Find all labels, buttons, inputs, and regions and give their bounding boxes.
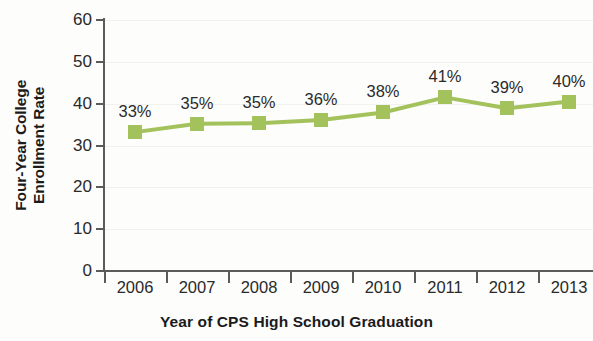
x-axis-tick-label: 2011 xyxy=(414,278,476,297)
data-point-label: 39% xyxy=(475,78,539,97)
data-point-marker xyxy=(562,95,576,109)
y-axis-tick-label: 10 xyxy=(52,219,92,239)
y-axis-tick-mark xyxy=(96,61,105,63)
y-axis-tick-mark xyxy=(96,19,105,21)
x-axis-tick-label: 2007 xyxy=(166,278,228,297)
data-point-label: 35% xyxy=(227,93,291,112)
data-point-label: 35% xyxy=(165,94,229,113)
y-axis-tick-labels: 0102030405060 xyxy=(50,0,92,341)
data-point-marker xyxy=(500,101,514,115)
data-point-marker xyxy=(190,117,204,131)
y-axis-tick-label: 50 xyxy=(52,52,92,72)
y-axis-tick-mark xyxy=(96,228,105,230)
x-axis-title: Year of CPS High School Graduation xyxy=(0,313,593,331)
y-axis-tick-label: 20 xyxy=(52,177,92,197)
gridline xyxy=(104,146,593,147)
data-point-label: 33% xyxy=(103,102,167,121)
x-axis-tick-label: 2008 xyxy=(228,278,290,297)
gridline xyxy=(104,229,593,230)
data-point-label: 41% xyxy=(413,67,477,86)
y-axis-tick-label: 60 xyxy=(52,10,92,30)
data-point-marker xyxy=(376,105,390,119)
data-point-marker xyxy=(128,125,142,139)
line-chart: Four-Year College Enrollment Rate 010203… xyxy=(0,0,593,341)
plot-area xyxy=(104,20,593,271)
gridline xyxy=(104,187,593,188)
x-axis-tick-label: 2006 xyxy=(104,278,166,297)
x-axis-tick-label: 2009 xyxy=(290,278,352,297)
y-axis-tick-mark xyxy=(96,145,105,147)
data-point-label: 38% xyxy=(351,82,415,101)
y-axis-tick-label: 0 xyxy=(52,261,92,281)
x-axis-line xyxy=(96,270,593,272)
data-point-marker xyxy=(314,113,328,127)
data-point-marker xyxy=(438,90,452,104)
x-axis-tick-label: 2010 xyxy=(352,278,414,297)
y-axis-title-line-1: Four-Year College xyxy=(12,80,30,211)
y-axis-title-line-2: Enrollment Rate xyxy=(30,80,48,211)
gridline xyxy=(104,62,593,63)
data-point-label: 40% xyxy=(537,72,593,91)
data-point-marker xyxy=(252,116,266,130)
y-axis-tick-mark xyxy=(96,186,105,188)
y-axis-tick-label: 40 xyxy=(52,94,92,114)
x-axis-tick-label: 2013 xyxy=(538,278,593,297)
y-axis-tick-label: 30 xyxy=(52,136,92,156)
data-point-label: 36% xyxy=(289,90,353,109)
gridline xyxy=(104,20,593,21)
x-axis-tick-label: 2012 xyxy=(476,278,538,297)
